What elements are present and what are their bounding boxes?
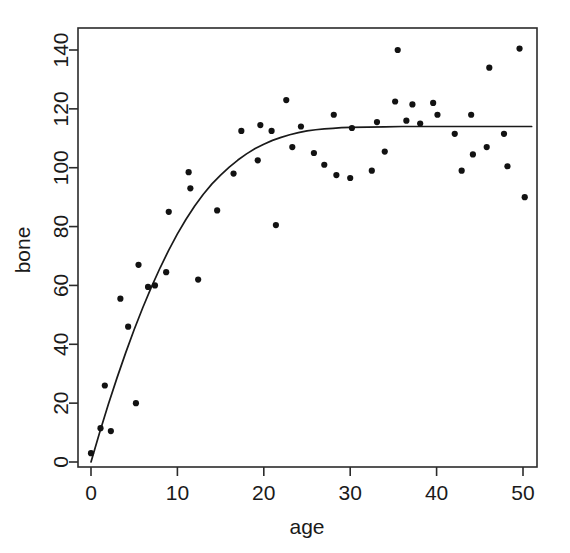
data-point xyxy=(504,163,510,169)
data-point xyxy=(133,400,139,406)
x-tick-label-0: 0 xyxy=(85,481,97,504)
x-tick-label-40: 40 xyxy=(425,481,448,504)
y-tick-label-0: 0 xyxy=(49,456,72,468)
data-point xyxy=(311,150,317,156)
data-point xyxy=(486,65,492,71)
data-point xyxy=(501,131,507,137)
data-point xyxy=(333,172,339,178)
data-point xyxy=(214,207,220,213)
data-point xyxy=(145,284,151,290)
data-point xyxy=(88,450,94,456)
data-point xyxy=(186,169,192,175)
data-point xyxy=(125,324,131,330)
data-point xyxy=(289,144,295,150)
data-point xyxy=(484,144,490,150)
data-point xyxy=(369,168,375,174)
data-point xyxy=(403,118,409,124)
x-tick-label-30: 30 xyxy=(339,481,362,504)
data-point xyxy=(268,128,274,134)
x-tick-label-10: 10 xyxy=(166,481,189,504)
data-point xyxy=(434,112,440,118)
data-point xyxy=(97,425,103,431)
data-point xyxy=(283,97,289,103)
x-tick-label-50: 50 xyxy=(511,481,534,504)
data-point xyxy=(166,209,172,215)
data-point xyxy=(257,122,263,128)
data-point xyxy=(522,194,528,200)
plot-container: 01020304050 020406080100120140 age bone xyxy=(0,0,570,553)
data-point xyxy=(238,128,244,134)
data-point xyxy=(117,296,123,302)
data-point xyxy=(102,382,108,388)
data-point xyxy=(468,112,474,118)
y-tick-label-120: 120 xyxy=(49,91,72,126)
data-point xyxy=(187,185,193,191)
data-point xyxy=(255,157,261,163)
data-point xyxy=(430,100,436,106)
scatter-plot-with-fitted-curve: 01020304050 020406080100120140 age bone xyxy=(0,0,570,553)
x-tick-label-20: 20 xyxy=(252,481,275,504)
y-tick-label-140: 140 xyxy=(49,32,72,67)
data-point xyxy=(349,125,355,131)
data-point xyxy=(273,222,279,228)
data-point xyxy=(470,151,476,157)
data-point xyxy=(374,119,380,125)
data-point xyxy=(382,148,388,154)
data-point xyxy=(298,123,304,129)
data-point xyxy=(230,171,236,177)
data-point xyxy=(321,162,327,168)
data-point xyxy=(108,428,114,434)
data-point xyxy=(135,262,141,268)
y-tick-label-20: 20 xyxy=(49,391,72,414)
data-point xyxy=(392,98,398,104)
y-axis-title: bone xyxy=(11,227,34,274)
data-point xyxy=(331,112,337,118)
y-tick-label-40: 40 xyxy=(49,333,72,356)
y-tick-label-100: 100 xyxy=(49,150,72,185)
data-point xyxy=(195,276,201,282)
data-point xyxy=(409,101,415,107)
x-axis-title: age xyxy=(289,515,324,538)
y-tick-label-60: 60 xyxy=(49,274,72,297)
data-point xyxy=(516,45,522,51)
data-point xyxy=(347,175,353,181)
data-point xyxy=(395,47,401,53)
plot-background xyxy=(0,0,570,553)
data-point xyxy=(417,120,423,126)
data-point xyxy=(163,269,169,275)
data-point xyxy=(452,131,458,137)
data-point xyxy=(459,168,465,174)
data-point xyxy=(152,282,158,288)
y-tick-label-80: 80 xyxy=(49,215,72,238)
